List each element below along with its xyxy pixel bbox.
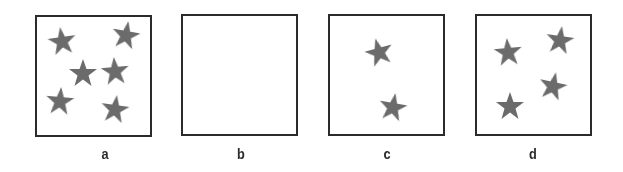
star-icon: [376, 90, 411, 125]
panel-c-label: c: [362, 145, 413, 162]
star-icon: [543, 23, 577, 57]
star-icon: [98, 92, 132, 126]
star-icon: [535, 68, 571, 104]
panel-b-label: b: [216, 145, 267, 162]
panel-d-label: d: [508, 145, 559, 162]
star-icon: [68, 58, 98, 88]
star-icon: [495, 91, 525, 121]
star-icon: [492, 36, 525, 69]
star-icon: [45, 24, 79, 58]
star-icon: [109, 18, 144, 53]
panel-b: [181, 14, 298, 136]
star-icon: [99, 55, 132, 88]
panel-a-label: a: [80, 145, 131, 162]
star-icon: [44, 85, 77, 118]
